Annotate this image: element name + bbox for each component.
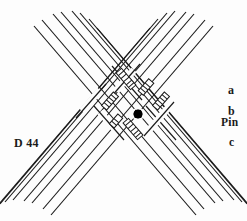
callout-label-a: a: [228, 84, 234, 96]
figure-root: D 44 a b Pin c: [0, 0, 247, 221]
pin-dot-core: [134, 110, 142, 118]
weave-diagram: [0, 0, 247, 221]
paper-background: [0, 0, 247, 221]
callout-label-c: c: [229, 137, 234, 149]
callout-label-pin: Pin: [221, 117, 239, 129]
plate-label: D 44: [14, 137, 39, 149]
